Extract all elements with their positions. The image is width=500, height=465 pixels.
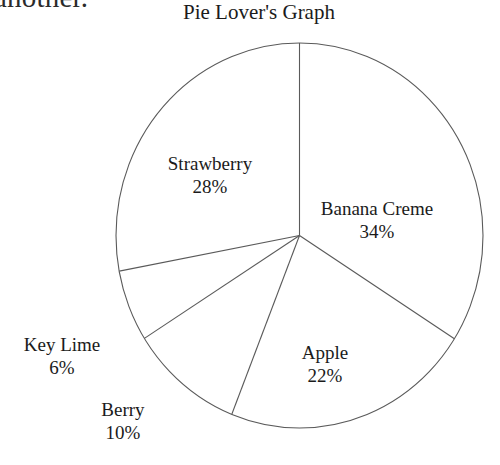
slice-label-banana-creme: Banana Creme 34% bbox=[311, 197, 443, 243]
slice-label-berry: Berry 10% bbox=[78, 398, 168, 444]
slice-label-apple-name: Apple bbox=[302, 342, 348, 363]
slice-label-key-lime-name: Key Lime bbox=[24, 334, 101, 355]
slice-label-apple-value: 22% bbox=[283, 364, 367, 387]
pie-chart-figure: another. Pie Lover's Graph Banana Creme … bbox=[0, 0, 500, 465]
slice-label-strawberry: Strawberry 28% bbox=[148, 152, 272, 198]
slice-label-strawberry-value: 28% bbox=[148, 175, 272, 198]
slice-label-strawberry-name: Strawberry bbox=[168, 153, 252, 174]
slice-label-banana-creme-value: 34% bbox=[311, 220, 443, 243]
slice-label-key-lime-value: 6% bbox=[2, 356, 122, 379]
slice-label-apple: Apple 22% bbox=[283, 341, 367, 387]
slice-label-banana-creme-name: Banana Creme bbox=[321, 198, 433, 219]
slice-label-berry-name: Berry bbox=[101, 399, 144, 420]
slice-label-berry-value: 10% bbox=[78, 421, 168, 444]
slice-label-key-lime: Key Lime 6% bbox=[2, 333, 122, 379]
